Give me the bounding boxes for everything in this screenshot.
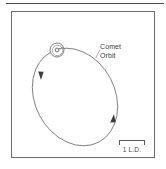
- scale-bar-tick-left: [119, 140, 120, 145]
- scale-bar: 1 L.D.: [119, 140, 145, 154]
- figure-frame-border: [11, 11, 155, 158]
- comet-orbit-label: Comet Orbit: [100, 43, 121, 60]
- scale-bar-graphic: [119, 140, 145, 146]
- figure-root: Comet Orbit 1 L.D.: [0, 0, 166, 169]
- scale-bar-line: [119, 140, 145, 141]
- comet-orbit-label-line1: Comet: [100, 43, 121, 52]
- scale-bar-label: 1 L.D.: [119, 146, 145, 154]
- scale-bar-tick-right: [144, 140, 145, 145]
- comet-orbit-label-line2: Orbit: [100, 52, 121, 61]
- top-rule-divider: [6, 3, 164, 4]
